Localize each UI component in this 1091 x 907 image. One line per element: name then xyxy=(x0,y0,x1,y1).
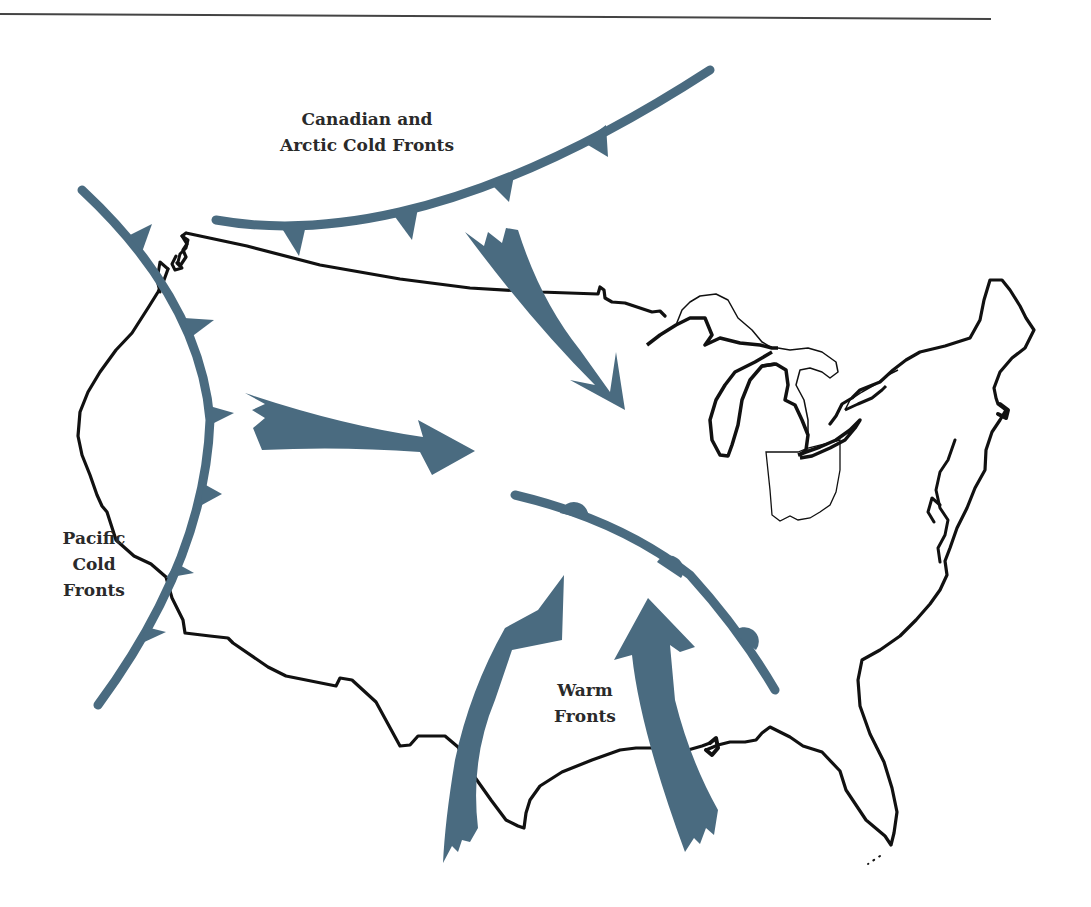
label-line: Warm xyxy=(530,677,640,703)
label-line: Fronts xyxy=(44,577,144,603)
diagram-canvas xyxy=(0,0,1091,907)
label-line: Cold xyxy=(44,551,144,577)
label-line: Pacific xyxy=(44,525,144,551)
arrow-arctic-air xyxy=(465,228,625,410)
label-warm-fronts: Warm Fronts xyxy=(530,677,640,729)
label-line: Canadian and xyxy=(274,106,460,132)
top-rule xyxy=(0,14,991,19)
great-lakes xyxy=(647,294,898,458)
label-canadian-arctic-cold-fronts: Canadian and Arctic Cold Fronts xyxy=(274,106,460,158)
weather-fronts-diagram: Canadian and Arctic Cold Fronts Pacific … xyxy=(0,0,1091,907)
canadian-arctic-cold-front xyxy=(216,70,710,256)
label-line: Fronts xyxy=(530,703,640,729)
arrow-pacific-air xyxy=(245,393,475,475)
fronts xyxy=(82,70,775,705)
label-line: Arctic Cold Fronts xyxy=(274,132,460,158)
label-pacific-cold-fronts: Pacific Cold Fronts xyxy=(44,525,144,603)
